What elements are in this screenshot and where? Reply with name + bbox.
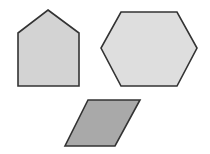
hexagon-shape [101,12,197,86]
pentagon-shape [18,10,79,86]
parallelogram-shape [65,100,140,146]
shapes-svg [0,0,210,154]
shapes-diagram [0,0,210,154]
